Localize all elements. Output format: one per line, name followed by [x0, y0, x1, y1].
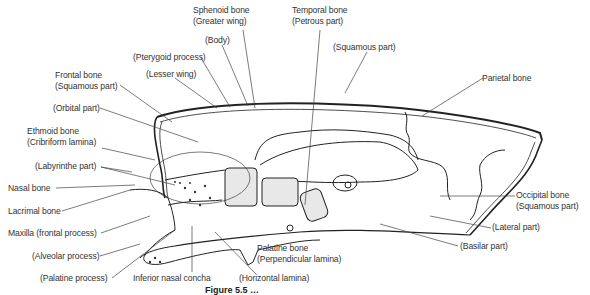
- label-maxilla: Maxilla (frontal process): [8, 228, 97, 239]
- label-text: (Petrous part): [292, 16, 348, 27]
- label-frontal-bone: Frontal bone (Squamous part): [55, 70, 118, 92]
- label-labyrinthe-part: (Labyrinthe part): [35, 161, 96, 172]
- label-occipital-bone: Occipital bone (Squamous part): [516, 190, 579, 212]
- label-text: Temporal bone: [292, 5, 348, 16]
- label-horizontal-lamina: (Horizontal lamina): [239, 273, 309, 284]
- label-text: (Greater wing): [193, 16, 250, 27]
- label-body: (Body): [205, 35, 230, 46]
- label-pterygoid-process: (Pterygoid process): [133, 52, 206, 63]
- label-lesser-wing: (Lesser wing): [146, 69, 196, 80]
- label-text: (Cribriform lamina): [27, 137, 96, 148]
- label-text: (Squamous part): [516, 201, 579, 212]
- label-lacrimal-bone: Lacrimal bone: [8, 206, 61, 217]
- label-text: (Perpendicular lamina): [257, 254, 341, 265]
- label-text: Ethmoid bone: [27, 126, 96, 137]
- label-orbital-part: (Orbital part): [53, 103, 100, 114]
- label-parietal-bone: Parietal bone: [482, 73, 531, 84]
- figure-caption: Figure 5.5 …: [205, 285, 259, 295]
- label-inferior-nasal-concha: Inferior nasal concha: [133, 273, 211, 284]
- label-lateral-part: (Lateral part): [492, 222, 540, 233]
- label-squamous-part-temporal: (Squamous part): [333, 42, 396, 53]
- label-text: Occipital bone: [516, 190, 579, 201]
- label-nasal-bone: Nasal bone: [8, 183, 50, 194]
- label-text: Frontal bone: [55, 70, 118, 81]
- label-palatine-process: (Palatine process): [40, 273, 107, 284]
- label-text: (Squamous part): [55, 81, 118, 92]
- label-palatine-bone: Palatine bone (Perpendicular lamina): [257, 243, 341, 265]
- label-alveolar-process: (Alveolar process): [32, 251, 99, 262]
- label-ethmoid-bone: Ethmoid bone (Cribriform lamina): [27, 126, 96, 148]
- label-temporal-bone: Temporal bone (Petrous part): [292, 5, 348, 27]
- label-sphenoid-bone: Sphenoid bone (Greater wing): [193, 5, 250, 27]
- label-basilar-part: (Basilar part): [460, 241, 508, 252]
- label-text: Sphenoid bone: [193, 5, 250, 16]
- label-text: Palatine bone: [257, 243, 341, 254]
